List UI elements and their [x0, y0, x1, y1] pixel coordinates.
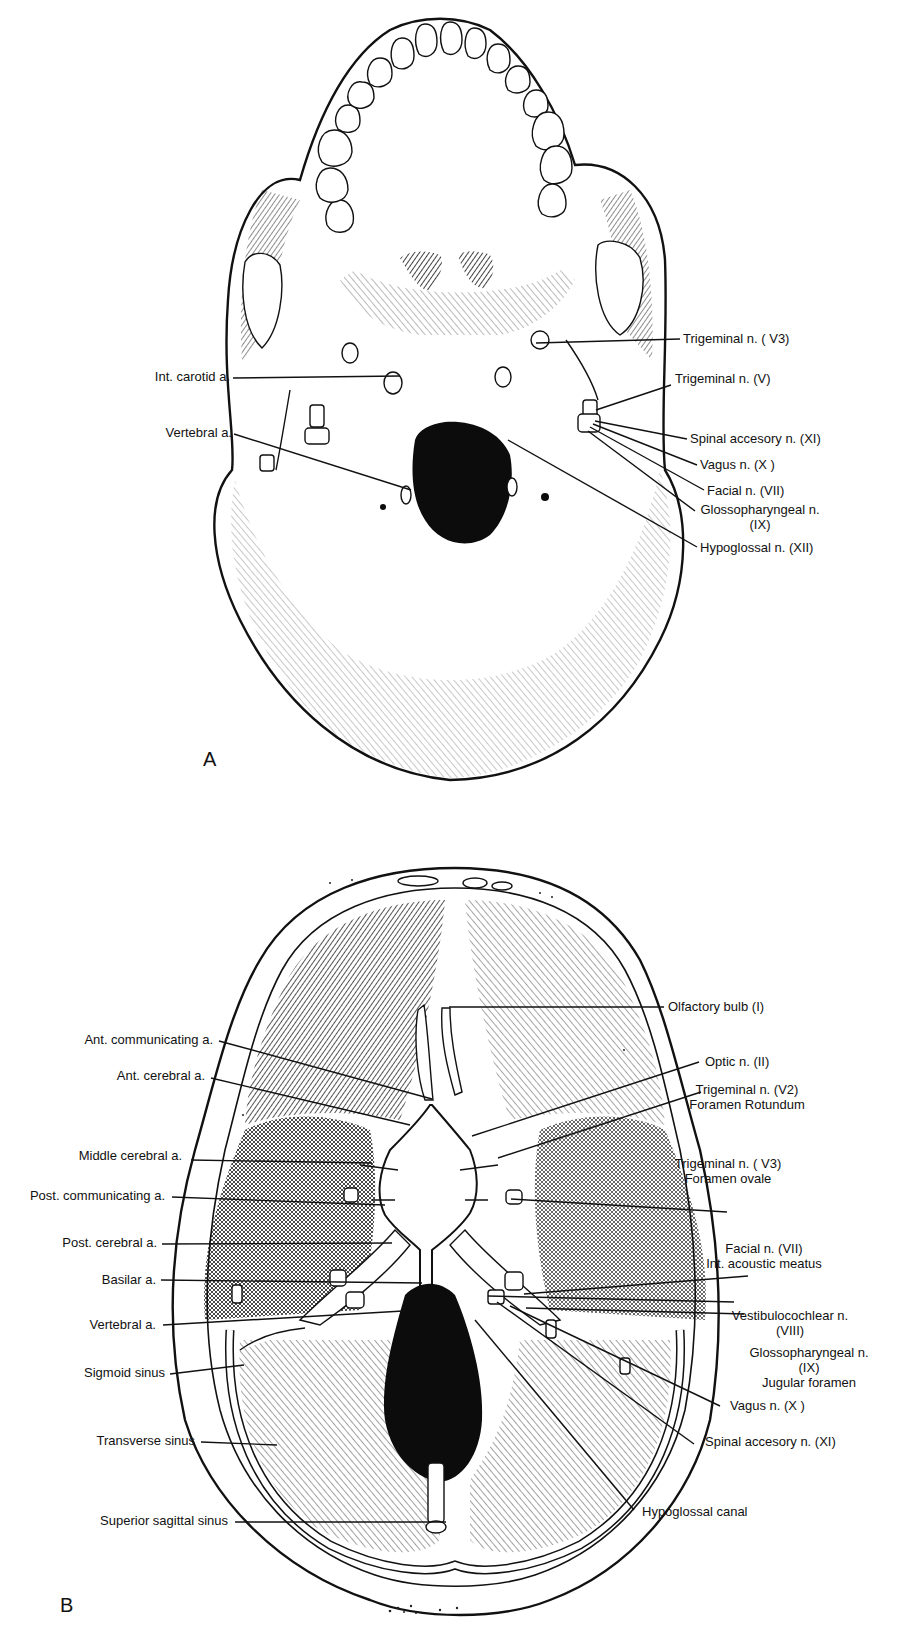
label-hypoglossal-canal: Hypoglossal canal	[642, 1504, 748, 1519]
label-vertebral-a: Vertebral a.	[166, 425, 233, 440]
label-ant-communicating: Ant. communicating a.	[84, 1032, 213, 1047]
label-vertebral-b: Vertebral a.	[90, 1317, 157, 1332]
label-post-cerebral: Post. cerebral a.	[62, 1235, 157, 1250]
label-middle-cerebral: Middle cerebral a.	[79, 1148, 182, 1163]
label-hypoglossal: Hypoglossal n. (XII)	[700, 540, 813, 555]
label-glossopharyngeal: Glossopharyngeal n.(IX)	[700, 502, 819, 532]
label-basilar: Basilar a.	[102, 1272, 156, 1287]
label-vagus: Vagus n. (X )	[700, 457, 775, 472]
label-trigeminal-v3-b: Trigeminal n. ( V3)Foramen ovale	[675, 1156, 781, 1186]
label-post-communicating: Post. communicating a.	[30, 1188, 165, 1203]
label-sigmoid: Sigmoid sinus	[84, 1365, 165, 1380]
label-olfactory: Olfactory bulb (I)	[668, 999, 764, 1014]
label-trigeminal-v3: Trigeminal n. ( V3)	[683, 331, 789, 346]
panel-b-drawing	[173, 868, 719, 1615]
label-ant-cerebral: Ant. cerebral a.	[117, 1068, 205, 1083]
label-superior-sagittal: Superior sagittal sinus	[100, 1513, 228, 1528]
label-vestibulocochlear: Vestibulocochlear n.(VIII)	[732, 1308, 848, 1338]
label-trigeminal-v: Trigeminal n. (V)	[675, 371, 771, 386]
label-transverse: Transverse sinus	[97, 1433, 196, 1448]
label-optic: Optic n. (II)	[705, 1054, 769, 1069]
label-vagus-b: Vagus n. (X )	[730, 1398, 805, 1413]
panel-letter-a: A	[203, 748, 217, 770]
panel-a-drawing	[214, 19, 683, 780]
label-int-carotid: Int. carotid a.	[155, 369, 230, 384]
label-facial-b: Facial n. (VII)Int. acoustic meatus	[706, 1241, 822, 1271]
label-glossopharyngeal-b: Glossopharyngeal n.(IX)Jugular foramen	[749, 1345, 868, 1390]
cropped-caption	[0, 1622, 906, 1633]
label-spinal-accessory-b: Spinal accesory n. (XI)	[705, 1434, 836, 1449]
skull-base-illustration: Trigeminal n. ( V3)Trigeminal n. (V)Int.…	[0, 0, 906, 1633]
label-trigeminal-v2: Trigeminal n. (V2)Foramen Rotundum	[689, 1082, 805, 1112]
label-spinal-accessory: Spinal accesory n. (XI)	[690, 431, 821, 446]
label-facial: Facial n. (VII)	[707, 483, 784, 498]
panel-letter-b: B	[60, 1594, 73, 1616]
